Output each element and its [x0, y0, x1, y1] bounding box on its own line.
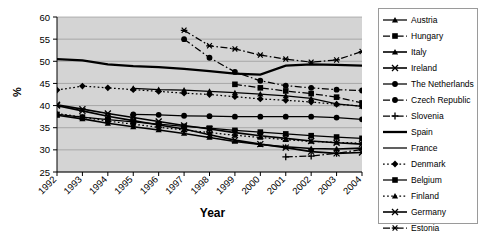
x-tick-label: 1997: [163, 174, 186, 197]
legend-item-belgium[interactable]: Belgium: [382, 172, 475, 188]
legend-key-icon: [382, 109, 408, 123]
y-tick-label: 35: [39, 122, 50, 133]
data-point-marker: [181, 36, 187, 42]
data-point-marker: [392, 97, 398, 103]
chart-screenshot: 2530354045505560199219931994199519961997…: [0, 0, 482, 232]
data-point-marker: [392, 33, 398, 39]
x-tick-label: 2003: [315, 174, 338, 197]
data-point-marker: [232, 82, 238, 88]
legend-label: Denmark: [408, 159, 445, 169]
legend-key-icon: [382, 77, 408, 91]
legend-key-icon: [382, 141, 408, 155]
x-tick-label: 1994: [87, 174, 110, 197]
x-tick-label: 1993: [61, 174, 84, 197]
data-point-marker: [334, 115, 340, 121]
x-tick-label: 2000: [239, 174, 262, 197]
legend-item-germany[interactable]: Germany: [382, 204, 475, 220]
y-tick-label: 55: [39, 34, 50, 45]
legend-key-icon: [382, 221, 408, 232]
data-point-marker: [258, 85, 264, 91]
x-tick-label: 2002: [290, 174, 313, 197]
legend-key-icon: [382, 29, 408, 43]
legend-label: Italy: [408, 47, 427, 57]
y-tick-label: 30: [39, 144, 50, 155]
x-tick-label: 2004: [341, 174, 364, 197]
legend-item-ireland[interactable]: Ireland: [382, 60, 475, 76]
legend-label: Slovenia: [408, 111, 444, 121]
legend-label: Hungary: [408, 31, 443, 41]
legend-item-denmark[interactable]: Denmark: [382, 156, 475, 172]
legend-label: France: [408, 143, 437, 153]
legend-key-icon: [382, 173, 408, 187]
x-axis-title: Year: [60, 206, 365, 220]
legend-key-icon: [382, 61, 408, 75]
legend-key-icon: [382, 45, 408, 59]
data-point-marker: [181, 113, 187, 119]
data-point-marker: [232, 114, 238, 120]
line-chart-plot: 2530354045505560199219931994199519961997…: [0, 0, 372, 232]
legend-label: Austria: [408, 15, 437, 25]
y-tick-label: 60: [39, 12, 50, 23]
legend-item-slovenia[interactable]: Slovenia: [382, 108, 475, 124]
x-tick-label: 2001: [264, 174, 287, 197]
data-point-marker: [392, 161, 399, 168]
data-point-marker: [257, 114, 263, 120]
legend-item-the-netherlands[interactable]: The Netherlands: [382, 76, 475, 92]
legend-label: The Netherlands: [408, 79, 474, 89]
legend-label: Ireland: [408, 63, 437, 73]
legend-key-icon: [382, 189, 408, 203]
data-point-marker: [334, 134, 340, 140]
data-point-marker: [308, 91, 314, 97]
legend-label: Belgium: [408, 175, 442, 185]
y-tick-label: 50: [39, 56, 50, 67]
x-tick-label: 1996: [137, 174, 160, 197]
legend-label: Czech Republic: [408, 95, 471, 105]
data-point-marker: [156, 112, 162, 118]
data-point-marker: [392, 113, 399, 120]
legend-key-icon: [382, 205, 408, 219]
data-point-marker: [359, 88, 365, 94]
legend-item-estonia[interactable]: Estonia: [382, 220, 475, 232]
legend-label: Germany: [408, 207, 446, 217]
y-axis-title: %: [11, 77, 23, 107]
data-point-marker: [392, 225, 399, 230]
legend-item-italy[interactable]: Italy: [382, 44, 475, 60]
data-point-marker: [392, 81, 398, 87]
x-tick-label: 1995: [112, 174, 135, 197]
x-tick-label: 1998: [188, 174, 211, 197]
y-tick-label: 40: [39, 100, 50, 111]
legend-key-icon: [382, 13, 408, 27]
legend-label: Estonia: [408, 223, 439, 232]
legend-item-hungary[interactable]: Hungary: [382, 28, 475, 44]
data-point-marker: [283, 83, 289, 89]
data-point-marker: [359, 116, 365, 122]
data-point-marker: [308, 114, 314, 120]
data-point-marker: [283, 88, 289, 94]
legend-label: Spain: [408, 127, 433, 137]
legend-label: Finland: [408, 191, 439, 201]
legend-item-france[interactable]: France: [382, 140, 475, 156]
legend-item-czech-republic[interactable]: Czech Republic: [382, 92, 475, 108]
data-point-marker: [308, 85, 314, 91]
y-tick-label: 45: [39, 78, 50, 89]
data-point-marker: [207, 113, 213, 119]
legend-key-icon: [382, 93, 408, 107]
legend-item-austria[interactable]: Austria: [382, 12, 475, 28]
x-tick-label: 1999: [214, 174, 237, 197]
chart-container: 2530354045505560199219931994199519961997…: [0, 0, 372, 232]
data-point-marker: [283, 114, 289, 120]
data-point-marker: [207, 55, 213, 61]
legend-key-icon: [382, 157, 408, 171]
legend-item-spain[interactable]: Spain: [382, 124, 475, 140]
data-point-marker: [392, 177, 398, 183]
data-point-marker: [334, 94, 340, 100]
legend-key-icon: [382, 125, 408, 139]
data-point-marker: [334, 87, 340, 93]
legend-item-finland[interactable]: Finland: [382, 188, 475, 204]
chart-legend: AustriaHungaryItalyIrelandThe Netherland…: [378, 8, 478, 224]
data-point-marker: [308, 133, 314, 139]
data-point-marker: [257, 78, 263, 84]
